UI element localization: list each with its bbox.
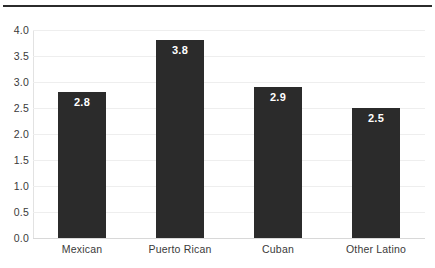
x-tick-label: Puerto Rican — [148, 243, 211, 255]
y-tick-label: 0.0 — [3, 232, 29, 244]
bar-value-label: 2.5 — [352, 112, 400, 124]
y-tick-label: 3.0 — [3, 76, 29, 88]
gridline — [33, 238, 425, 239]
bars-container: 2.83.82.92.5 — [33, 30, 425, 238]
y-tick-label: 1.0 — [3, 180, 29, 192]
y-tick-label: 0.5 — [3, 206, 29, 218]
y-tick-label: 1.5 — [3, 154, 29, 166]
bar[interactable]: 2.5 — [352, 108, 400, 238]
y-tick-label: 4.0 — [3, 24, 29, 36]
x-tick-label: Mexican — [62, 243, 103, 255]
x-tick-label: Cuban — [262, 243, 294, 255]
bar-value-label: 2.8 — [58, 96, 106, 108]
bar-value-label: 2.9 — [254, 91, 302, 103]
top-divider-rule — [3, 5, 432, 7]
bar[interactable]: 3.8 — [156, 40, 204, 238]
bar[interactable]: 2.8 — [58, 92, 106, 238]
x-tick-label: Other Latino — [346, 243, 406, 255]
y-axis-tick-labels: 0.00.51.01.52.02.53.03.54.0 — [0, 30, 29, 238]
bar-value-label: 3.8 — [156, 44, 204, 56]
y-tick-label: 2.5 — [3, 102, 29, 114]
x-axis-tick-labels: MexicanPuerto RicanCubanOther Latino — [33, 243, 425, 265]
y-tick-label: 3.5 — [3, 50, 29, 62]
bar-chart-figure: 0.00.51.01.52.02.53.03.54.0 2.83.82.92.5… — [0, 0, 435, 268]
bar[interactable]: 2.9 — [254, 87, 302, 238]
y-tick-label: 2.0 — [3, 128, 29, 140]
